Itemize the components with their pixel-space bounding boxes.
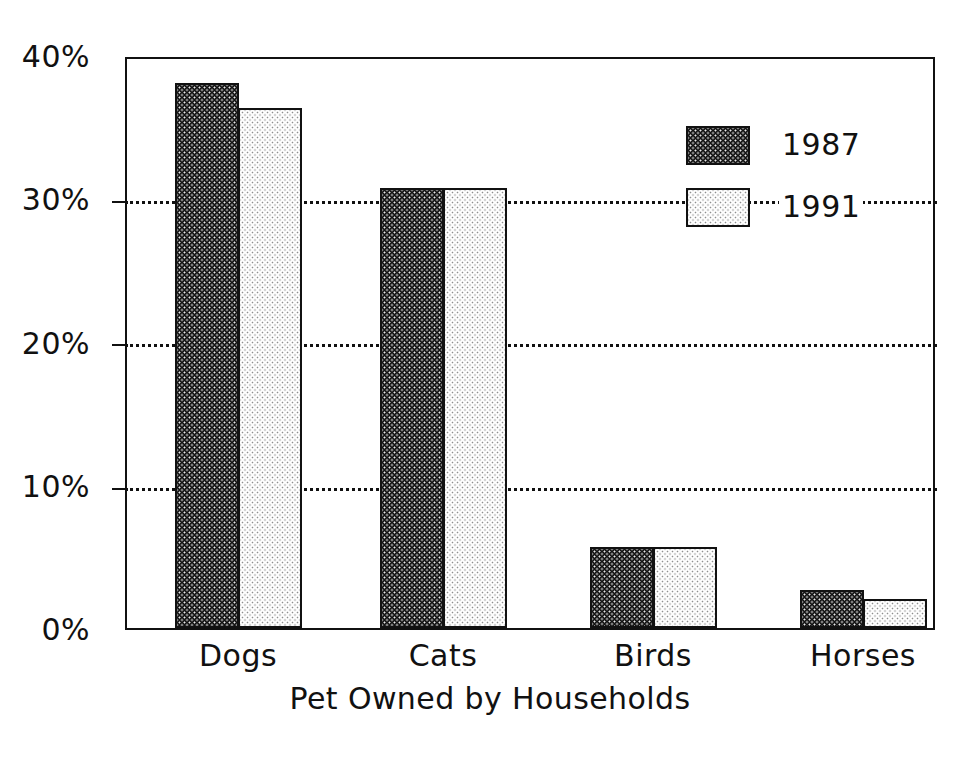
bar-cats-1991 (443, 188, 507, 628)
x-tick-label-cats: Cats (363, 641, 523, 671)
y-tick-mark-20 (112, 344, 125, 346)
pet-ownership-bar-chart: 40% 30% 20% 10% 0% Dogs Cats Birds H (0, 0, 980, 758)
legend-entry-1987: 1987 (686, 126, 863, 164)
bar-dogs-1991 (238, 108, 302, 628)
y-tick-mark-30 (112, 201, 125, 203)
bar-dogs-1987 (175, 83, 239, 628)
bar-birds-1987 (590, 547, 654, 628)
chart-legend: 1987 1991 (686, 126, 863, 250)
legend-swatch-1987 (686, 126, 750, 165)
x-tick-label-dogs: Dogs (158, 641, 318, 671)
legend-label-1987: 1987 (779, 128, 863, 162)
bar-birds-1991 (653, 547, 717, 628)
y-tick-label-10: 10% (0, 472, 90, 502)
bar-horses-1991 (863, 599, 927, 628)
y-tick-label-20: 20% (0, 329, 90, 359)
x-axis-title: Pet Owned by Households (0, 684, 980, 714)
bar-cats-1987 (380, 188, 444, 628)
y-tick-mark-10 (112, 488, 125, 490)
legend-entry-1991: 1991 (686, 188, 863, 226)
legend-label-1991: 1991 (779, 190, 863, 224)
y-tick-label-40: 40% (0, 42, 90, 72)
bar-group-cats (380, 59, 555, 628)
bar-horses-1987 (800, 590, 864, 628)
x-tick-label-birds: Birds (573, 641, 733, 671)
y-tick-label-30: 30% (0, 185, 90, 215)
x-tick-label-horses: Horses (783, 641, 943, 671)
legend-swatch-1991 (686, 188, 750, 227)
bar-group-dogs (175, 59, 350, 628)
y-tick-label-0: 0% (0, 615, 90, 645)
